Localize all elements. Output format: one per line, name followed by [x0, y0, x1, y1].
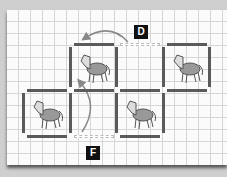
match-right-2[interactable] [115, 47, 118, 87]
match-bottom-3[interactable] [120, 135, 160, 138]
arrow-d-icon [85, 31, 128, 42]
horse-icon [169, 49, 205, 85]
label-d: D [134, 25, 148, 39]
match-top-4[interactable] [167, 43, 207, 46]
match-bottom-4[interactable] [167, 89, 207, 92]
match-top-3[interactable] [120, 89, 160, 92]
match-right-1[interactable] [69, 93, 72, 133]
match-left-2[interactable] [69, 47, 72, 87]
match-top-2[interactable] [74, 43, 114, 46]
match-left-3[interactable] [115, 93, 118, 133]
horse-icon [122, 95, 158, 131]
horse-icon [76, 49, 112, 85]
match-bottom-1[interactable] [27, 135, 67, 138]
horse-icon [29, 95, 65, 131]
label-f: F [86, 146, 100, 160]
match-bottom-2[interactable] [74, 89, 114, 92]
match-right-3[interactable] [162, 93, 165, 133]
empty-slot-f [74, 135, 114, 138]
match-top-1[interactable] [27, 89, 67, 92]
match-left-4[interactable] [162, 47, 165, 87]
match-left-1[interactable] [22, 93, 25, 133]
empty-slot-d [120, 43, 160, 46]
match-right-4[interactable] [208, 47, 211, 87]
